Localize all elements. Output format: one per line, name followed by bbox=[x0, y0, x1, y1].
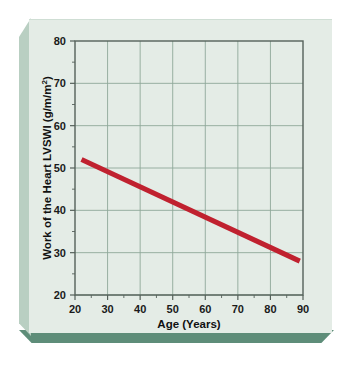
y-axis-title: Work of the Heart LVSWI (g/m/m2) bbox=[40, 76, 53, 260]
y-tick-label: 30 bbox=[54, 247, 66, 259]
x-axis-tick-labels: 2030405060708090 bbox=[69, 303, 309, 315]
x-tick-label: 60 bbox=[199, 303, 211, 315]
x-tick-label: 70 bbox=[232, 303, 244, 315]
line-chart: 2030405060708090 20304050607080 Age (Yea… bbox=[29, 19, 332, 332]
y-tick-label: 50 bbox=[54, 162, 66, 174]
x-tick-label: 50 bbox=[167, 303, 179, 315]
x-tick-label: 30 bbox=[101, 303, 113, 315]
y-tick-label: 40 bbox=[54, 204, 66, 216]
y-axis-title-suffix: ) bbox=[41, 76, 53, 80]
y-axis-title-main: Work of the Heart LVSWI (g/m/m bbox=[41, 85, 53, 260]
y-tick-label: 70 bbox=[54, 77, 66, 89]
y-axis-major-ticks bbox=[70, 41, 75, 295]
x-tick-label: 80 bbox=[264, 303, 276, 315]
y-tick-label: 80 bbox=[54, 35, 66, 47]
x-tick-label: 40 bbox=[134, 303, 146, 315]
y-tick-label: 20 bbox=[54, 289, 66, 301]
y-tick-label: 60 bbox=[54, 120, 66, 132]
x-axis-title: Age (Years) bbox=[157, 318, 220, 330]
y-axis-tick-labels: 20304050607080 bbox=[54, 35, 66, 301]
figure-root: 2030405060708090 20304050607080 Age (Yea… bbox=[0, 0, 343, 366]
x-tick-label: 90 bbox=[297, 303, 309, 315]
x-tick-label: 20 bbox=[69, 303, 81, 315]
